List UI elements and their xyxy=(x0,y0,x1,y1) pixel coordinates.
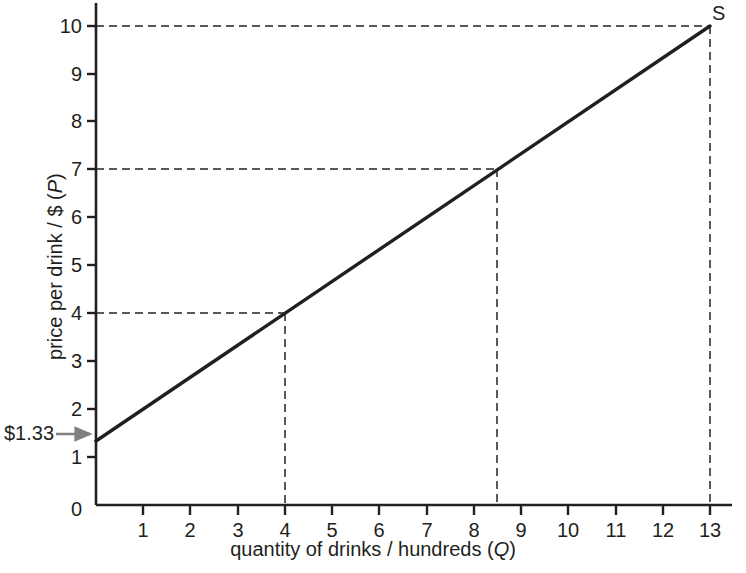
x-tick-label-7: 7 xyxy=(421,520,432,540)
x-tick-label-9: 9 xyxy=(515,520,526,540)
y-tick-label-0: 0 xyxy=(58,499,82,519)
intercept-value-label: $1.33 xyxy=(4,422,54,445)
x-axis-title-variable: Q xyxy=(494,538,510,560)
x-tick-label-11: 11 xyxy=(606,520,627,540)
supply-curve-line xyxy=(96,26,710,441)
guide-lines-group xyxy=(96,26,710,505)
x-axis-ticks xyxy=(143,505,710,515)
x-axis-title-close: ) xyxy=(509,538,516,560)
x-tick-label-8: 8 xyxy=(468,520,479,540)
x-tick-label-5: 5 xyxy=(326,520,337,540)
axes-group xyxy=(96,3,732,505)
x-tick-label-4: 4 xyxy=(279,520,290,540)
supply-line-segment xyxy=(96,26,710,441)
y-axis-title: price per drink / $ (P) xyxy=(44,173,67,360)
x-tick-label-3: 3 xyxy=(232,520,243,540)
x-tick-label-13: 13 xyxy=(699,520,721,540)
y-axis-title-variable: P xyxy=(44,180,66,193)
x-axis-title-text: quantity of drinks / hundreds ( xyxy=(230,538,493,560)
y-tick-label-8: 8 xyxy=(58,111,82,131)
y-tick-label-2: 2 xyxy=(58,399,82,419)
supply-curve-chart: 10 9 8 7 6 5 4 3 2 1 0 1 2 3 4 5 6 7 8 9… xyxy=(0,0,746,573)
x-tick-label-10: 10 xyxy=(557,520,579,540)
x-tick-label-12: 12 xyxy=(652,520,674,540)
x-tick-label-1: 1 xyxy=(137,520,148,540)
y-tick-label-1: 1 xyxy=(58,447,82,467)
y-tick-label-10: 10 xyxy=(58,16,82,36)
x-axis-title: quantity of drinks / hundreds (Q) xyxy=(0,538,746,561)
supply-curve-label: S xyxy=(712,2,725,25)
x-tick-label-6: 6 xyxy=(373,520,384,540)
y-tick-label-9: 9 xyxy=(58,64,82,84)
plot-area xyxy=(0,0,746,573)
y-axis-ticks xyxy=(87,26,96,457)
y-axis-title-close: ) xyxy=(44,173,66,180)
x-tick-label-2: 2 xyxy=(184,520,195,540)
y-axis-title-text: price per drink / $ ( xyxy=(44,193,66,360)
